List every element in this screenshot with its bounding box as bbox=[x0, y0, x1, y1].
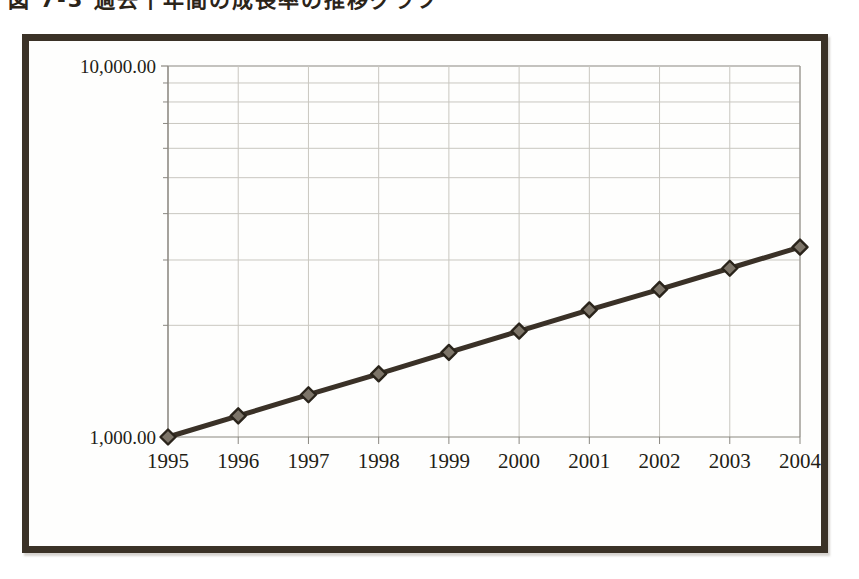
figure-caption: 図 7-3 過去十年間の成長率の推移グラフ bbox=[0, 0, 859, 22]
figure-frame bbox=[22, 34, 828, 553]
figure-caption-text: 図 7-3 過去十年間の成長率の推移グラフ bbox=[8, 0, 439, 13]
